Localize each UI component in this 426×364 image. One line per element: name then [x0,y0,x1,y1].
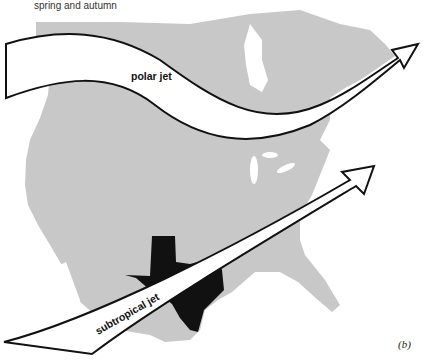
great-lake [262,152,278,158]
polar-jet-label: polar jet [131,70,172,82]
great-lake [250,156,258,184]
panel-label: (b) [398,338,411,350]
jet-stream-map: polar jet subtropical jet [0,0,426,364]
